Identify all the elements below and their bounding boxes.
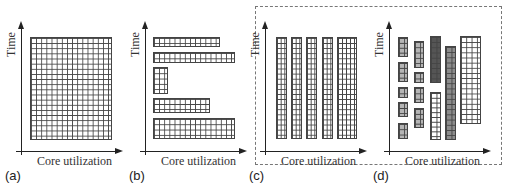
job-block [322, 37, 333, 139]
job-block [398, 102, 408, 117]
core-utilization-axis [140, 151, 240, 152]
job-block [460, 36, 481, 124]
job-block [153, 52, 235, 63]
job-block [398, 37, 408, 57]
job-block [153, 98, 210, 113]
core-utilization-axis [260, 151, 360, 152]
arrow-right-icon [115, 148, 123, 154]
time-axis [145, 24, 146, 155]
arrow-up-icon [262, 21, 268, 29]
arrow-right-icon [483, 148, 491, 154]
job-block [153, 67, 168, 94]
panel-label-b: (b) [129, 168, 145, 183]
job-block [398, 123, 408, 139]
job-block [306, 37, 317, 139]
job-block [398, 62, 408, 82]
y-axis-label: Time [248, 32, 263, 57]
dark-job-block [430, 36, 441, 83]
time-axis [389, 24, 390, 155]
y-axis-label: Time [128, 32, 143, 57]
job-block [414, 87, 424, 103]
panel-label-c: (c) [249, 168, 264, 183]
job-block [414, 72, 424, 83]
job-block [430, 92, 441, 140]
job-block [337, 37, 357, 139]
job-block [276, 37, 287, 139]
x-axis-label: Core utilization [405, 154, 480, 169]
y-axis-label: Time [372, 32, 387, 57]
y-axis-label: Time [4, 32, 19, 57]
job-block [291, 37, 302, 139]
core-utilization-axis [384, 151, 484, 152]
arrow-right-icon [239, 148, 247, 154]
medium-job-block [445, 46, 456, 140]
full-grid-block [30, 37, 112, 140]
panel-label-a: (a) [5, 168, 21, 183]
panel-label-d: (d) [373, 168, 389, 183]
job-block [398, 87, 408, 98]
x-axis-label: Core utilization [281, 154, 356, 169]
job-block [414, 41, 424, 68]
x-axis-label: Core utilization [161, 154, 236, 169]
arrow-up-icon [18, 21, 24, 29]
core-utilization-axis [16, 151, 116, 152]
x-axis-label: Core utilization [37, 154, 112, 169]
job-block [414, 108, 424, 128]
job-block [153, 37, 220, 47]
time-axis [265, 24, 266, 155]
arrow-right-icon [359, 148, 367, 154]
arrow-up-icon [142, 21, 148, 29]
time-axis [21, 24, 22, 155]
job-block [153, 118, 235, 139]
arrow-up-icon [386, 21, 392, 29]
